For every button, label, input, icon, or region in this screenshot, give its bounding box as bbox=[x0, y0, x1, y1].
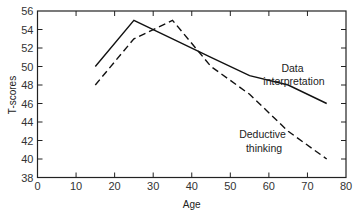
x-tick-label: 50 bbox=[224, 180, 236, 192]
y-tick-label: 38 bbox=[21, 172, 33, 184]
data-series bbox=[95, 20, 326, 159]
x-tick-label: 60 bbox=[263, 180, 275, 192]
y-tick-label: 42 bbox=[21, 135, 33, 147]
plot-frame bbox=[38, 11, 347, 178]
y-tick-label: 54 bbox=[21, 24, 33, 36]
y-tick-label: 40 bbox=[21, 153, 33, 165]
annotation-line: thinking bbox=[246, 142, 282, 154]
line-chart: 01020304050607080 38404244464850525456 A… bbox=[0, 0, 360, 212]
x-tick-label: 0 bbox=[34, 180, 40, 192]
y-tick-label: 48 bbox=[21, 79, 33, 91]
y-tick-label: 56 bbox=[21, 5, 33, 17]
x-tick-label: 80 bbox=[340, 180, 352, 192]
x-tick-label: 20 bbox=[109, 180, 121, 192]
y-tick-label: 50 bbox=[21, 61, 33, 73]
plot-border bbox=[38, 11, 347, 178]
y-tick-label: 52 bbox=[21, 42, 33, 54]
x-tick-label: 10 bbox=[70, 180, 82, 192]
axis-ticks bbox=[38, 11, 347, 178]
x-tick-label: 70 bbox=[301, 180, 313, 192]
y-tick-labels: 38404244464850525456 bbox=[21, 5, 33, 184]
annotation-line: Data bbox=[281, 62, 303, 74]
y-axis-label: T-scores bbox=[7, 76, 18, 114]
y-tick-label: 46 bbox=[21, 98, 33, 110]
x-tick-labels: 01020304050607080 bbox=[34, 180, 352, 192]
y-tick-label: 44 bbox=[21, 116, 33, 128]
x-tick-label: 40 bbox=[186, 180, 198, 192]
annotation-line: Deductive bbox=[239, 128, 286, 140]
annotation-data-interpretation: Data interpretation bbox=[263, 62, 324, 87]
x-tick-label: 30 bbox=[147, 180, 159, 192]
series-deductive-thinking bbox=[95, 20, 326, 159]
annotation-line: interpretation bbox=[263, 75, 324, 87]
x-axis-label: Age bbox=[183, 199, 201, 210]
annotation-deductive-thinking: Deductive thinking bbox=[239, 128, 289, 154]
